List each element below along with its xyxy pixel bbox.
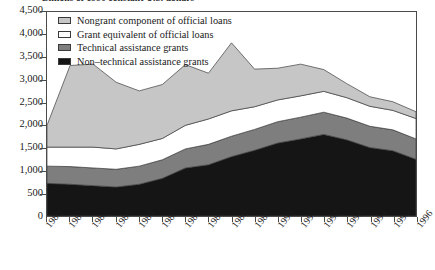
legend-swatch-icon [58, 17, 71, 24]
x-tick-label: 1996 [414, 208, 435, 230]
figure-supertitle: Billions of 1996 constant U.S. dollars [42, 0, 194, 3]
legend-swatch-icon [58, 58, 71, 65]
chart-legend: Nongrant component of official loansGran… [58, 14, 232, 68]
legend-swatch-icon [58, 31, 71, 38]
legend-technical-assistance: Technical assistance grants [58, 41, 232, 55]
legend-label: Non–technical assistance grants [77, 55, 209, 69]
legend-swatch-icon [58, 44, 71, 51]
legend-non-technical-assistance: Non–technical assistance grants [58, 55, 232, 69]
legend-grant-equivalent: Grant equivalent of official loans [58, 28, 232, 42]
legend-nongrant-component: Nongrant component of official loans [58, 14, 232, 28]
legend-label: Nongrant component of official loans [77, 14, 232, 28]
legend-label: Grant equivalent of official loans [77, 28, 213, 42]
legend-label: Technical assistance grants [77, 41, 188, 55]
y-tick-label: 0 [38, 211, 43, 222]
